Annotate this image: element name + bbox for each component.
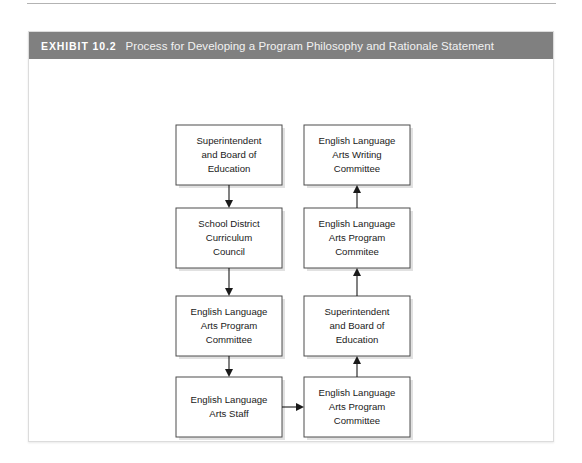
node-right-4-line-2: Arts Program [329, 401, 386, 412]
exhibit-title: Process for Developing a Program Philoso… [126, 40, 494, 52]
connector-left-4-to-right-4 [282, 403, 304, 411]
node-left-3: English Language Arts Program Committee [176, 296, 285, 359]
node-left-4: English Language Arts Staff [176, 377, 285, 440]
node-left-2-line-1: School District [198, 218, 260, 229]
node-right-4-line-3: Committee [334, 415, 380, 426]
page-top-rule [27, 3, 556, 4]
node-right-1: English Language Arts Writing Committee [304, 125, 413, 188]
node-left-3-line-3: Committee [206, 334, 252, 345]
node-right-3-line-3: Education [336, 334, 379, 345]
connector-right-2-to-1 [353, 185, 361, 208]
node-right-1-line-1: English Language [319, 135, 396, 146]
exhibit-header-bar: EXHIBIT 10.2 Process for Developing a Pr… [29, 32, 553, 59]
node-left-3-line-2: Arts Program [201, 320, 258, 331]
node-right-4-line-1: English Language [319, 387, 396, 398]
exhibit-panel: EXHIBIT 10.2 Process for Developing a Pr… [28, 31, 554, 442]
connector-left-1-to-2 [225, 185, 233, 208]
node-left-1-line-1: Superintendent [196, 135, 261, 146]
node-right-3-line-2: and Board of [330, 320, 385, 331]
node-left-2: School District Curriculum Council [176, 208, 285, 271]
node-right-2: English Language Arts Program Commitee [304, 208, 413, 271]
node-left-1-line-3: Education [208, 163, 251, 174]
node-right-3-line-1: Superintendent [324, 306, 389, 317]
node-right-1-line-3: Committee [334, 163, 380, 174]
node-left-4-line-2: Arts Staff [209, 408, 249, 419]
node-right-4: English Language Arts Program Committee [304, 377, 413, 440]
node-right-2-line-2: Arts Program [329, 232, 386, 243]
node-left-1: Superintendent and Board of Education [176, 125, 285, 188]
node-right-3: Superintendent and Board of Education [304, 296, 413, 359]
node-right-2-line-3: Commitee [335, 246, 379, 257]
connector-left-3-to-4 [225, 356, 233, 377]
exhibit-number-label: EXHIBIT 10.2 [41, 40, 117, 52]
node-left-4-line-1: English Language [191, 394, 268, 405]
node-left-2-line-3: Council [213, 246, 245, 257]
connector-right-4-to-3 [353, 356, 361, 377]
node-left-1-line-2: and Board of [202, 149, 257, 160]
node-right-1-line-2: Arts Writing [332, 149, 381, 160]
flowchart-diagram: Superintendent and Board of Education Sc… [29, 59, 553, 443]
connector-left-2-to-3 [225, 268, 233, 296]
node-left-2-line-2: Curriculum [206, 232, 252, 243]
node-right-2-line-1: English Language [319, 218, 396, 229]
connector-right-3-to-2 [353, 268, 361, 296]
node-left-3-line-1: English Language [191, 306, 268, 317]
